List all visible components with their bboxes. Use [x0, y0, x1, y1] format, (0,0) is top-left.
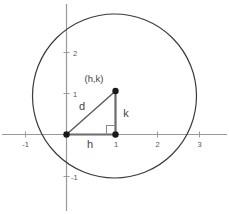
x-tick-label-neg1: -1 [22, 140, 29, 149]
diagram-canvas: -1 1 2 3 2 1 -1 (h,k) d k h [0, 0, 229, 214]
y-tick-label-1: 1 [73, 90, 77, 99]
circle-point [112, 88, 118, 94]
segment-label-d: d [79, 100, 85, 112]
segment-label-k: k [123, 107, 129, 119]
segment-label-h: h [87, 138, 93, 150]
x-tick-label-2: 2 [155, 140, 159, 149]
circle-geometry-figure: -1 1 2 3 2 1 -1 (h,k) d k h [0, 0, 229, 214]
y-tick-label-neg1: -1 [71, 173, 78, 182]
x-tick-label-1: 1 [114, 140, 118, 149]
foot-point [112, 131, 118, 137]
point-label-hk: (h,k) [85, 73, 104, 84]
annotation-labels-group: (h,k) d k h [79, 73, 129, 150]
y-tick-label-2: 2 [73, 49, 77, 58]
origin-point [63, 131, 69, 137]
x-tick-label-3: 3 [197, 140, 201, 149]
tick-labels-group: -1 1 2 3 2 1 -1 [22, 49, 201, 183]
